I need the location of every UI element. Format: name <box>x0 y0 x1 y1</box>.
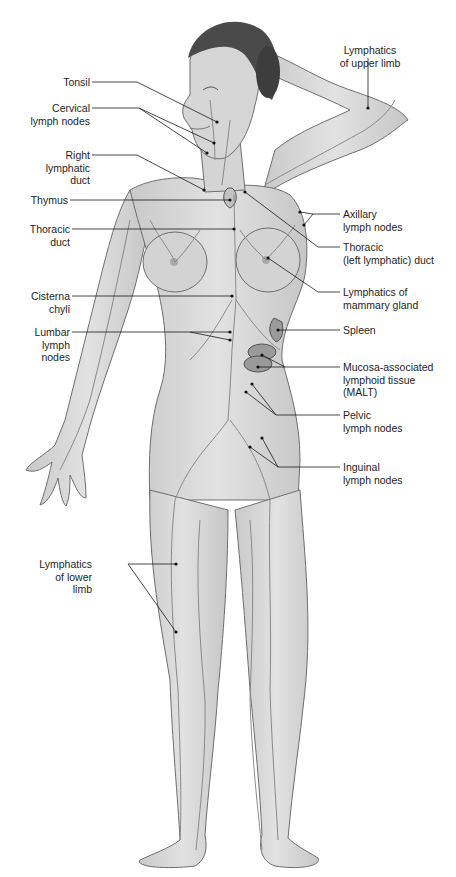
legs <box>139 490 318 868</box>
lymphatic-system-figure: Tonsil Cervical lymph nodes Right lympha… <box>0 0 456 877</box>
label-inguinal-lymph-nodes: Inguinal lymph nodes <box>343 461 453 486</box>
label-tonsil: Tonsil <box>20 76 90 89</box>
label-lymphatics-upper-limb: Lymphatics of upper limb <box>325 44 415 69</box>
label-lymphatics-lower-limb: Lymphatics of lower limb <box>10 558 92 596</box>
label-pelvic-lymph-nodes: Pelvic lymph nodes <box>343 409 453 434</box>
label-lumbar-lymph-nodes: Lumbar lymph nodes <box>0 326 70 364</box>
label-lymphatics-mammary-gland: Lymphatics of mammary gland <box>343 286 453 311</box>
head <box>183 22 280 192</box>
label-spleen: Spleen <box>343 324 453 337</box>
label-right-lymphatic-duct: Right lymphatic duct <box>10 149 90 187</box>
label-cervical-lymph-nodes: Cervical lymph nodes <box>10 102 90 127</box>
label-cisterna-chyli: Cisterna chyli <box>0 290 70 315</box>
label-thoracic-duct: Thoracic duct <box>0 223 70 248</box>
anatomy-illustration <box>0 0 456 877</box>
label-axillary-lymph-nodes: Axillary lymph nodes <box>343 208 453 233</box>
label-malt: Mucosa-associated lymphoid tissue (MALT) <box>343 361 456 399</box>
label-thoracic-left-duct: Thoracic (left lymphatic) duct <box>343 241 456 266</box>
label-thymus: Thymus <box>0 194 68 207</box>
